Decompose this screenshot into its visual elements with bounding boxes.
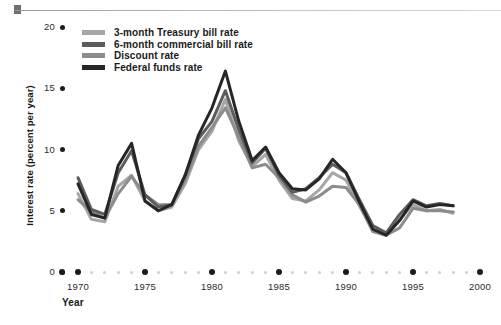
x-axis-tick-dot-minor <box>117 271 120 274</box>
x-axis-tick-dot-major <box>343 269 349 275</box>
legend-item: 6-month commercial bill rate <box>82 39 253 51</box>
x-axis-tick-dot-minor <box>452 271 455 274</box>
legend-item-label: 3-month Treasury bill rate <box>114 27 239 38</box>
x-axis-tick-dot-minor <box>251 271 254 274</box>
x-axis-tick-dot-minor <box>398 271 401 274</box>
x-axis-tick-dot-major <box>477 269 483 275</box>
x-axis-tick-dot-minor <box>331 271 334 274</box>
x-axis-title: Year <box>62 297 84 308</box>
x-axis-tick-label: 1970 <box>58 281 98 292</box>
y-axis-tick-dot <box>60 86 65 91</box>
series-line <box>78 91 453 233</box>
x-axis-tick-dot-minor <box>197 271 200 274</box>
x-axis-tick-dot-minor <box>90 271 93 274</box>
legend-color-swatch <box>82 53 105 58</box>
series-line <box>78 99 453 235</box>
x-axis-tick-label: 2000 <box>460 281 500 292</box>
x-axis-origin-dot <box>59 269 65 275</box>
x-axis-tick-dot-minor <box>304 271 307 274</box>
x-axis-tick-dot-minor <box>224 271 227 274</box>
x-axis-tick-dot-minor <box>318 271 321 274</box>
legend-item-label: Federal funds rate <box>114 62 203 73</box>
x-axis-tick-label: 1985 <box>259 281 299 292</box>
legend-item: Federal funds rate <box>82 62 253 74</box>
legend-item-label: Discount rate <box>114 50 179 61</box>
chart-page: 05101520 1970197519801985199019952000 In… <box>0 0 501 325</box>
legend-color-swatch <box>82 42 105 47</box>
x-axis-tick-label: 1990 <box>326 281 366 292</box>
x-axis-tick-dot-minor <box>291 271 294 274</box>
x-axis-tick-dot-major <box>410 269 416 275</box>
legend-item: Discount rate <box>82 50 253 62</box>
y-axis-tick-label: 20 <box>29 21 55 32</box>
x-axis-tick-dot-minor <box>425 271 428 274</box>
x-axis-tick-label: 1995 <box>393 281 433 292</box>
chart-legend: 3-month Treasury bill rate6-month commer… <box>82 27 253 73</box>
x-axis-tick-dot-minor <box>438 271 441 274</box>
x-axis-tick-dot-major <box>209 269 215 275</box>
x-axis-tick-dot-minor <box>170 271 173 274</box>
legend-item-label: 6-month commercial bill rate <box>114 39 253 50</box>
x-axis-tick-dot-minor <box>385 271 388 274</box>
x-axis-tick-dot-minor <box>184 271 187 274</box>
legend-color-swatch <box>82 30 105 35</box>
x-axis-tick-dot-major <box>75 269 81 275</box>
x-axis-tick-label: 1980 <box>192 281 232 292</box>
y-axis-tick-dot <box>60 25 65 30</box>
x-axis-tick-label: 1975 <box>125 281 165 292</box>
x-axis-tick-dot-minor <box>157 271 160 274</box>
y-axis-tick-label: 0 <box>29 266 55 277</box>
x-axis-tick-dot-minor <box>103 271 106 274</box>
x-axis-tick-dot-minor <box>371 271 374 274</box>
x-axis-tick-dot-minor <box>237 271 240 274</box>
y-axis-title: Interest rate (percent per year) <box>24 71 35 241</box>
x-axis-tick-dot-major <box>276 269 282 275</box>
x-axis-tick-dot-minor <box>358 271 361 274</box>
legend-item: 3-month Treasury bill rate <box>82 27 253 39</box>
x-axis-tick-dot-minor <box>264 271 267 274</box>
legend-color-swatch <box>82 65 105 70</box>
x-axis-tick-dot-minor <box>465 271 468 274</box>
y-axis-tick-dot <box>60 147 65 152</box>
x-axis-tick-dot-minor <box>130 271 133 274</box>
x-axis-tick-dot-major <box>142 269 148 275</box>
